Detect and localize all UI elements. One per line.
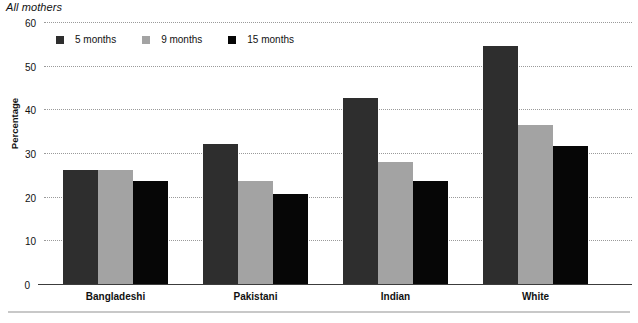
bar (553, 146, 588, 284)
legend-swatch-icon (142, 36, 150, 44)
footer-divider (8, 311, 630, 313)
legend-swatch-icon (228, 36, 236, 44)
bar-group-pakistani: Pakistani (203, 22, 308, 284)
legend-swatch-icon (56, 36, 64, 44)
x-axis-category-label: Indian (343, 291, 448, 302)
legend-item-9-months: 9 months (142, 34, 202, 45)
y-tick-label: 50 (25, 61, 36, 72)
bar (273, 194, 308, 284)
legend-label: 5 months (75, 34, 116, 45)
bar (483, 46, 518, 284)
plot-area: 0102030405060 BangladeshiPakistaniIndian… (44, 22, 632, 284)
y-tick-label: 10 (25, 236, 36, 247)
legend-label: 9 months (161, 34, 202, 45)
y-tick-label: 20 (25, 192, 36, 203)
bar-group-bangladeshi: Bangladeshi (63, 22, 168, 284)
chart-figure: All mothers Percentage 5 months 9 months… (0, 0, 638, 323)
legend-item-5-months: 5 months (56, 34, 116, 45)
y-tick-label: 30 (25, 149, 36, 160)
bar (98, 170, 133, 284)
legend-label: 15 months (247, 34, 294, 45)
bar (413, 181, 448, 284)
bar-group-white: White (483, 22, 588, 284)
bar-group-indian: Indian (343, 22, 448, 284)
bar-groups: BangladeshiPakistaniIndianWhite (44, 22, 632, 284)
y-axis-title: Percentage (9, 84, 20, 164)
chart-legend: 5 months 9 months 15 months (56, 34, 294, 45)
bar (63, 170, 98, 284)
x-axis-category-label: Bangladeshi (63, 291, 168, 302)
y-tick-label: 0 (24, 280, 30, 291)
bar (518, 125, 553, 284)
bar (378, 162, 413, 284)
bar (133, 181, 168, 284)
x-axis-category-label: Pakistani (203, 291, 308, 302)
bar (343, 98, 378, 284)
y-tick-label: 40 (25, 105, 36, 116)
legend-item-15-months: 15 months (228, 34, 294, 45)
chart-title: All mothers (6, 1, 62, 13)
gridline-0: 0 (38, 284, 632, 285)
bar (238, 181, 273, 284)
x-axis-category-label: White (483, 291, 588, 302)
bar (203, 144, 238, 284)
y-tick-label: 60 (25, 18, 36, 29)
